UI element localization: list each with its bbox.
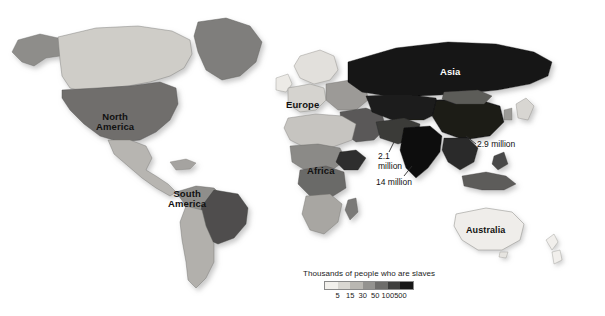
legend: Thousands of people who are slaves 5 15 … <box>289 269 449 302</box>
legend-title: Thousands of people who are slaves <box>289 269 449 278</box>
legend-tick-30: 30 <box>359 291 367 300</box>
legend-swatch-4 <box>363 282 376 289</box>
legend-swatch-1 <box>325 282 338 289</box>
legend-swatch-7 <box>400 282 413 289</box>
legend-tick-15: 15 <box>346 291 354 300</box>
legend-swatch-3 <box>350 282 363 289</box>
legend-swatch-6 <box>388 282 401 289</box>
legend-tick-5: 5 <box>335 291 339 300</box>
legend-swatch-5 <box>375 282 388 289</box>
world-map-figure: North America South America Europe Afric… <box>0 0 605 316</box>
legend-swatch-2 <box>338 282 351 289</box>
legend-tick-50: 50 <box>371 291 379 300</box>
legend-tick-labels: 5 15 30 50 100 500 <box>324 291 414 302</box>
legend-tick-500: 500 <box>394 291 407 300</box>
legend-gradient-bar <box>324 281 414 290</box>
legend-tick-100: 100 <box>382 291 395 300</box>
